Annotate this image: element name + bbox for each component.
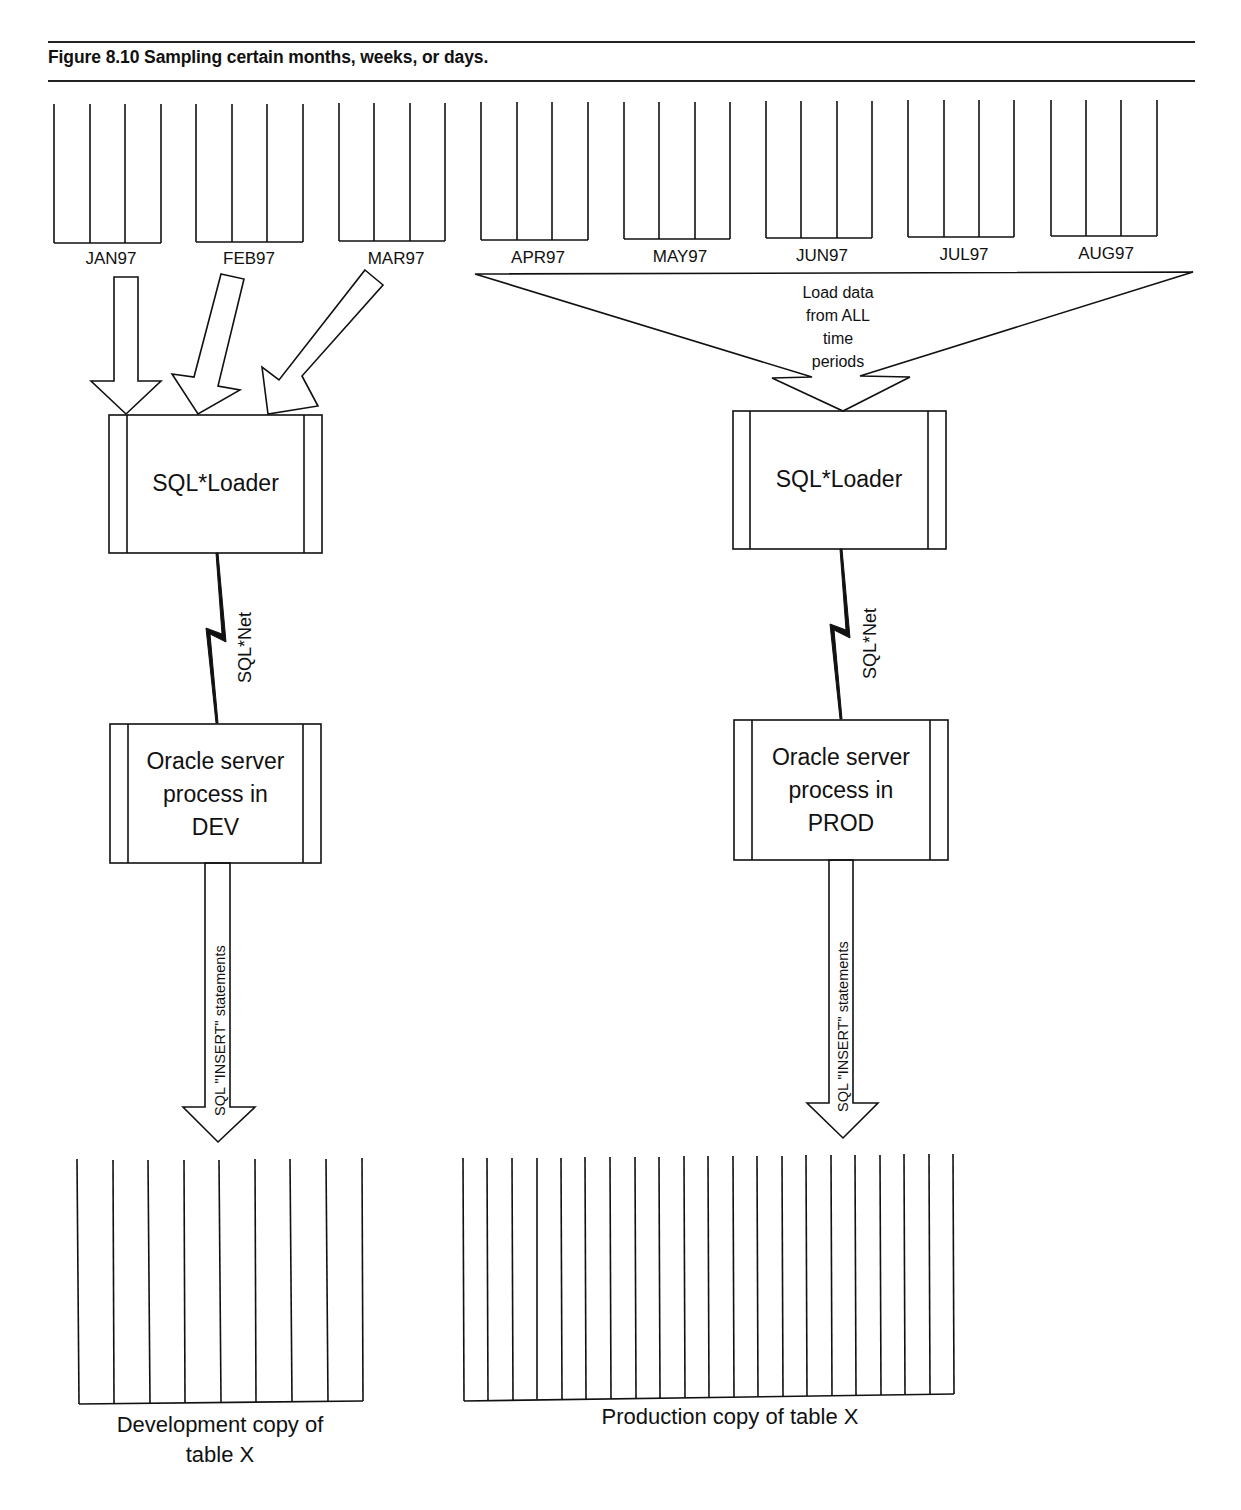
month-table-feb97 (196, 104, 303, 242)
server-label-line: Oracle server (752, 741, 930, 774)
prod-sqlnet-label: SQL*Net (860, 608, 880, 679)
prod-insert-label: SQL "INSERT" statements (835, 941, 851, 1112)
funnel-label-line: from ALL (783, 304, 893, 327)
month-table-jun97 (766, 101, 872, 238)
month-table-jul97 (908, 100, 1014, 237)
dev-sql-loader-label: SQL*Loader (127, 470, 304, 497)
dev-sqlnet-label: SQL*Net (235, 612, 255, 683)
dev-sqlnet-lightning-icon (206, 553, 226, 723)
dev-insert-label: SQL "INSERT" statements (212, 945, 228, 1116)
server-label-line: DEV (128, 811, 303, 844)
funnel-label-line: Load data (783, 281, 893, 304)
month-label-jan97: JAN97 (76, 249, 146, 269)
arrow-jan97-to-loader (91, 277, 161, 414)
month-table-mar97 (339, 103, 445, 241)
prod-funnel-label: Load data from ALL time periods (783, 281, 893, 373)
arrow-feb97-to-loader (172, 274, 244, 414)
month-table-may97 (624, 102, 730, 239)
funnel-label-line: time (783, 327, 893, 350)
target-label-line: Development copy of (70, 1410, 370, 1440)
month-table-aug97 (1051, 100, 1157, 236)
server-label-line: PROD (752, 807, 930, 840)
server-label-line: process in (752, 774, 930, 807)
prod-oracle-server-label: Oracle server process in PROD (752, 741, 930, 840)
server-label-line: Oracle server (128, 745, 303, 778)
month-label-jun97: JUN97 (782, 246, 862, 266)
server-label-line: process in (128, 778, 303, 811)
month-table-apr97 (481, 102, 588, 240)
prod-target-table (463, 1154, 954, 1401)
prod-sql-loader-label: SQL*Loader (750, 466, 928, 493)
arrow-mar97-to-loader (262, 270, 383, 414)
month-label-mar97: MAR97 (356, 249, 436, 269)
dev-target-label: Development copy of table X (70, 1410, 370, 1470)
month-label-feb97: FEB97 (214, 249, 284, 269)
funnel-label-line: periods (783, 350, 893, 373)
prod-target-label: Production copy of table X (560, 1404, 900, 1430)
prod-sqlnet-lightning-icon (830, 549, 850, 719)
month-label-may97: MAY97 (640, 247, 720, 267)
month-table-jan97 (54, 104, 161, 243)
month-label-aug97: AUG97 (1066, 244, 1146, 264)
month-label-jul97: JUL97 (924, 245, 1004, 265)
target-label-line: table X (70, 1440, 370, 1470)
dev-oracle-server-label: Oracle server process in DEV (128, 745, 303, 844)
month-label-apr97: APR97 (498, 248, 578, 268)
dev-target-table (77, 1158, 363, 1404)
